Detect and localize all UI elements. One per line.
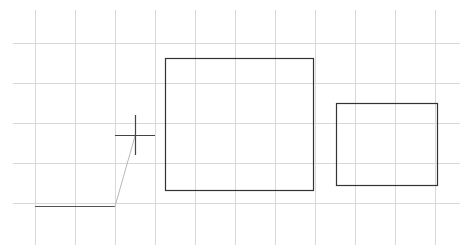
small-rectangle[interactable]	[337, 104, 438, 186]
grid	[13, 10, 460, 245]
drawing-canvas[interactable]	[0, 0, 466, 250]
crosshair-cursor-icon	[115, 115, 155, 155]
preview-segment	[115, 136, 135, 207]
large-rectangle[interactable]	[166, 59, 314, 191]
